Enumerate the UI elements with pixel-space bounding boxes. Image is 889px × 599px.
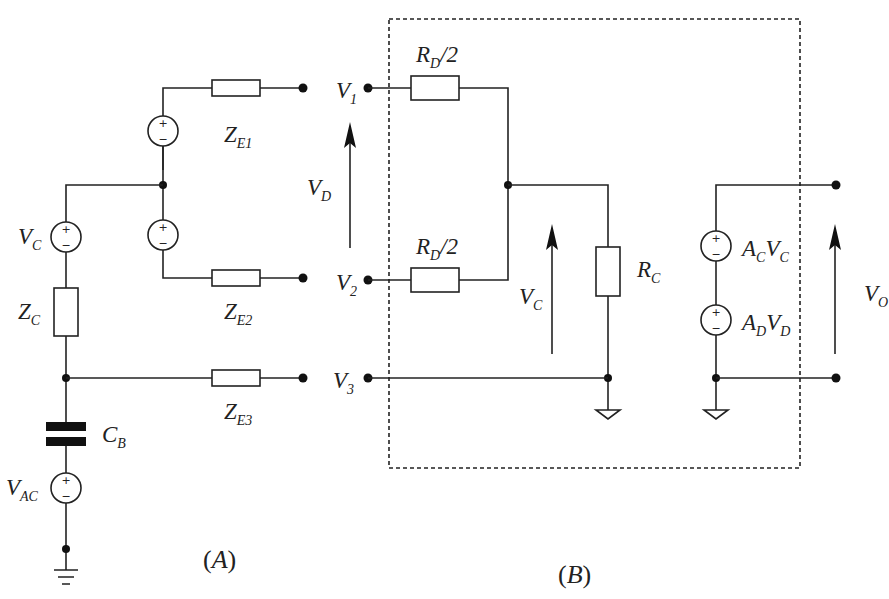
svg-text:+: + — [62, 223, 71, 236]
svg-text:−: − — [62, 239, 71, 252]
circuit-diagram: + − + − + − + − — [0, 0, 889, 599]
capacitor-cb-plate-2 — [46, 437, 86, 446]
svg-text:−: − — [712, 322, 721, 335]
label-cb: CB — [102, 423, 126, 451]
ground-icon — [596, 410, 620, 419]
label-acvc: ACVC — [742, 237, 789, 265]
label-v1: V1 — [336, 79, 357, 107]
resistor-rd-top — [411, 76, 459, 100]
caption-panel-a: (A) — [203, 545, 236, 575]
label-ze3: ZE3 — [224, 400, 252, 428]
resistor-ze1 — [212, 80, 260, 96]
svg-text:+: + — [159, 117, 168, 130]
svg-text:+: + — [712, 232, 721, 245]
label-v2: V2 — [336, 271, 357, 299]
earth-ground-icon — [54, 570, 78, 584]
resistor-rc — [596, 247, 620, 296]
svg-text:−: − — [712, 248, 721, 261]
resistor-ze3 — [212, 370, 260, 386]
svg-text:+: + — [712, 306, 721, 319]
svg-text:−: − — [159, 133, 168, 146]
svg-text:−: − — [62, 490, 71, 503]
svg-text:−: − — [159, 237, 168, 250]
capacitor-cb-plate-1 — [46, 422, 86, 431]
svg-text:+: + — [159, 221, 168, 234]
label-rc: RC — [637, 258, 660, 286]
label-v3: V3 — [333, 369, 354, 397]
label-advd: ADVD — [742, 311, 790, 339]
label-rd-bottom: RD/2 — [416, 235, 458, 263]
label-vd: VD — [307, 176, 331, 204]
svg-text:+: + — [62, 474, 71, 487]
label-zc: ZC — [18, 300, 40, 328]
label-ze2: ZE2 — [224, 300, 252, 328]
label-vo: VO — [864, 282, 888, 310]
label-vc-source: VC — [18, 225, 41, 253]
impedance-zc — [54, 288, 78, 336]
resistor-ze2 — [212, 270, 260, 286]
caption-panel-b: (B) — [558, 560, 591, 590]
label-ze1: ZE1 — [224, 123, 252, 151]
ground-icon — [704, 410, 728, 419]
resistor-rd-bottom — [411, 268, 459, 292]
label-rd-top: RD/2 — [416, 43, 458, 71]
label-vac: VAC — [6, 476, 38, 504]
label-vc: VC — [519, 285, 542, 313]
